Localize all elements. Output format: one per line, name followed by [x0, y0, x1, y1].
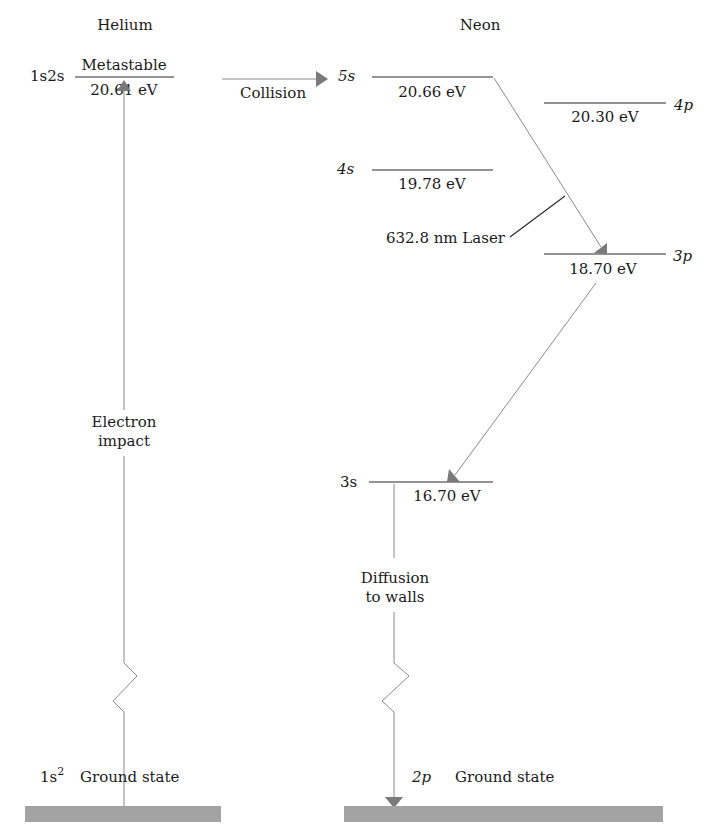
neon-ground-label: Ground state	[455, 768, 555, 786]
helium-ground-label: Ground state	[80, 768, 180, 786]
neon-3p-to-3s-transition	[447, 283, 596, 482]
helium-metastable-label: Metastable	[81, 56, 166, 74]
neon-5s-name: 5s	[338, 67, 356, 85]
diffusion-label-line2: to walls	[366, 588, 425, 606]
collision-transfer: Collision	[222, 71, 328, 102]
diffusion-label-line1: Diffusion	[361, 569, 430, 587]
helium-ground-bar	[25, 806, 221, 822]
helium-ground-config: 1s2	[40, 765, 64, 786]
excitation-label-line1: Electron	[92, 413, 157, 431]
excitation-label-line2: impact	[98, 432, 150, 450]
neon-ground-state: 2p Ground state	[344, 768, 663, 822]
helium-metastable-config: 1s2s	[30, 67, 64, 85]
neon-3s-name: 3s	[340, 473, 357, 491]
neon-diffusion-decay: Diffusion to walls	[361, 484, 430, 808]
neon-ground-config: 2p	[411, 768, 432, 786]
neon-4s-name: 4s	[336, 160, 355, 178]
neon-4p-name: 4p	[673, 96, 694, 114]
laser-label-leader	[510, 196, 565, 237]
neon-5s-energy: 20.66 eV	[398, 83, 467, 101]
neon-level-5s: 5s 20.66 eV	[338, 67, 493, 101]
he-ne-energy-diagram: Helium Neon 1s2s Metastable 20.61 eV Col…	[0, 0, 715, 830]
neon-ground-bar	[344, 806, 663, 822]
collision-arrowhead-icon	[316, 71, 328, 87]
laser-label: 632.8 nm Laser	[386, 229, 506, 247]
neon-level-3s: 3s 16.70 eV	[340, 473, 493, 505]
neon-level-3p: 3p 18.70 eV	[544, 247, 693, 278]
helium-metastable-level: 1s2s Metastable 20.61 eV	[30, 56, 174, 99]
helium-ground-state: 1s2 Ground state	[25, 765, 221, 822]
neon-4p-energy: 20.30 eV	[571, 108, 640, 126]
neon-3s-energy: 16.70 eV	[413, 487, 482, 505]
laser-transition: 632.8 nm Laser	[386, 78, 607, 254]
neon-level-4s: 4s 19.78 eV	[336, 160, 493, 193]
laser-arrowhead-icon	[594, 243, 607, 254]
neon-3p-name: 3p	[673, 247, 693, 265]
diffusion-line-lower-broken	[382, 612, 409, 797]
neon-3p-3s-line	[455, 283, 596, 475]
helium-excitation: Electron impact	[92, 80, 157, 808]
collision-label: Collision	[240, 84, 306, 102]
helium-heading: Helium	[97, 16, 152, 34]
neon-3p-energy: 18.70 eV	[569, 260, 638, 278]
neon-4s-energy: 19.78 eV	[398, 175, 467, 193]
excitation-line-lower-broken	[113, 456, 137, 808]
neon-heading: Neon	[460, 16, 501, 34]
neon-level-4p: 4p 20.30 eV	[544, 96, 694, 126]
